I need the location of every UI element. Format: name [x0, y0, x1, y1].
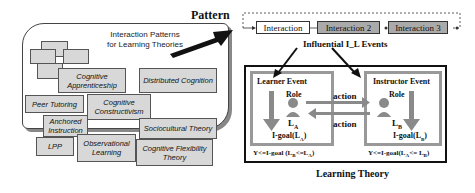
interaction-step-3: Interaction 3: [388, 21, 448, 34]
theory-peer-tutoring: Peer Tutoring: [25, 95, 84, 113]
stack-square-icon: [30, 49, 56, 64]
instructor-event-title: Instructor Event: [373, 77, 430, 86]
learner-goal: I-goal(LA): [272, 131, 306, 142]
theory-lpp: LPP: [36, 137, 74, 156]
stack-square-icon: [63, 49, 89, 64]
theory-cognitive-flexibility: Cognitive FlexibilityTheory: [136, 139, 213, 166]
action-label-bottom: action: [333, 119, 357, 129]
learner-role-label: Role: [286, 90, 302, 99]
instructor-condition: Y<=I-goal(LA<= LB): [368, 149, 429, 158]
instructor-role-label: Role: [389, 90, 405, 99]
theory-sociocultural: Sociocultural Theory: [139, 118, 217, 139]
theory-distributed-cognition: Distributed Cognition: [139, 68, 217, 93]
learner-condition: Y<=I-goal (LB<=LA): [253, 149, 314, 158]
action-label-top: action: [333, 91, 357, 101]
theory-observational-learning: ObservationalLearning: [77, 134, 136, 162]
learner-agent: LA: [288, 118, 298, 130]
instructor-goal: I-goal(LB): [393, 131, 427, 142]
interaction-step-1: Interaction: [256, 21, 310, 34]
theory-cognitive-constructivism: CognitiveConstructivism: [87, 94, 151, 120]
theory-cognitive-apprenticeship: CognitiveApprenticeship: [58, 68, 126, 93]
interaction-step-2: Interaction 2: [317, 21, 380, 34]
learner-event-title: Learner Event: [257, 77, 307, 86]
pattern-label: Pattern: [191, 8, 230, 23]
pattern-arrow-icon: [165, 24, 240, 60]
instructor-agent: LB: [392, 118, 402, 130]
learning-theory-title: Learning Theory: [316, 168, 389, 179]
